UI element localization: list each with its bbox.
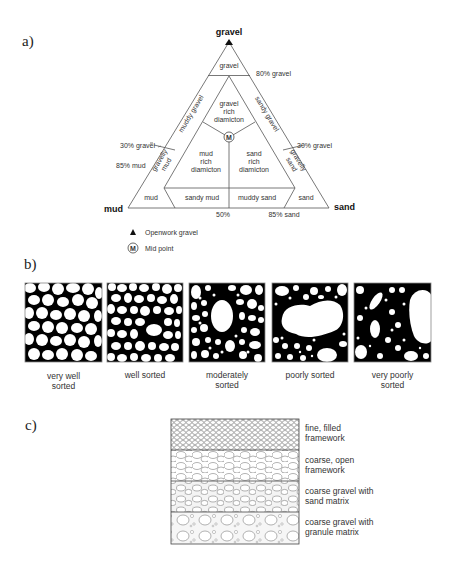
caption-line: well sorted <box>107 370 183 380</box>
region-gravel: gravel <box>219 62 239 70</box>
region-mud-rich-diamicton-2: rich <box>200 158 211 165</box>
label-coarse-gravel-sand-matrix: coarse gravel with sand matrix <box>305 486 374 506</box>
layer-coarse-open <box>171 450 299 481</box>
sorting-panel-moderately <box>189 283 265 362</box>
label-line: framework <box>305 465 354 475</box>
region-sandy-gravel: sandy gravel <box>253 95 281 134</box>
sorting-panel-well <box>107 283 183 362</box>
layer-fine-filled <box>171 419 299 450</box>
boundary-30-gravel-left: 30% gravel <box>120 142 155 150</box>
region-sandy-mud: sandy mud <box>185 194 219 202</box>
apex-label-sand: sand <box>334 202 355 212</box>
apex-label-mud: mud <box>104 204 123 214</box>
boundary-80-gravel: 80% gravel <box>256 70 291 78</box>
boundary-30-gravel-right: 30% gravel <box>297 142 332 150</box>
region-mud-rich-diamicton-1: mud <box>199 150 213 157</box>
label-line: coarse, open <box>305 455 354 465</box>
openwork-gravel-marker-icon <box>225 39 233 45</box>
label-fine-filled-framework: fine, filled framework <box>305 423 345 443</box>
label-line: fine, filled <box>305 423 345 433</box>
caption-line: sorted <box>25 381 102 391</box>
label-line: sand matrix <box>305 496 374 506</box>
region-mud: mud <box>144 194 158 201</box>
sorting-panel-very-poorly <box>354 283 432 362</box>
caption-very-poorly-sorted: very poorly sorted <box>354 370 431 390</box>
caption-line: sorted <box>189 380 265 390</box>
caption-line: very poorly <box>354 370 431 380</box>
boundary-50-percent: 50% <box>216 211 230 218</box>
region-sand-rich-diamicton-3: diamicton <box>239 166 269 173</box>
region-muddy-sand: muddy sand <box>238 194 276 202</box>
region-sand-rich-diamicton-1: sand <box>246 150 261 157</box>
sorting-panel-very-well <box>24 282 103 362</box>
caption-line: moderately <box>189 370 265 380</box>
label-line: framework <box>305 433 345 443</box>
label-coarse-gravel-granule-matrix: coarse gravel with granule matrix <box>305 517 374 537</box>
region-sand-rich-diamicton-2: rich <box>248 158 259 165</box>
caption-well-sorted: well sorted <box>107 370 183 380</box>
region-gravel-rich-diamicton-1: gravel <box>219 100 239 108</box>
midpoint-symbol: M <box>226 134 232 141</box>
label-coarse-open-framework: coarse, open framework <box>305 455 354 475</box>
region-gravel-rich-diamicton-2: rich <box>223 108 234 115</box>
boundary-85-mud: 85% mud <box>116 162 146 169</box>
region-muddy-gravel: muddy gravel <box>177 94 206 135</box>
apex-label-gravel: gravel <box>216 27 243 37</box>
panel-c-label: c) <box>25 417 37 434</box>
caption-very-well-sorted: very well sorted <box>25 371 102 391</box>
ternary-diagram: M gravel mud sand gravel muddy gravel sa… <box>0 0 449 270</box>
boundary-85-sand: 85% sand <box>268 211 299 218</box>
label-line: coarse gravel with <box>305 486 374 496</box>
legend-openwork-gravel: Openwork gravel <box>145 229 198 237</box>
caption-line: poorly sorted <box>272 370 348 380</box>
region-mud-rich-diamicton-3: diamicton <box>191 166 221 173</box>
caption-line: sorted <box>354 380 431 390</box>
region-gravel-rich-diamicton-3: diamicton <box>214 116 244 123</box>
caption-poorly-sorted: poorly sorted <box>272 370 348 380</box>
sorting-panel-poorly <box>272 283 348 362</box>
caption-line: very well <box>25 371 102 381</box>
layer-coarse-sand-matrix <box>171 481 299 512</box>
label-line: coarse gravel with <box>305 517 374 527</box>
legend-mid-point: Mid point <box>145 245 173 253</box>
label-line: granule matrix <box>305 527 374 537</box>
legend-midpoint-symbol: M <box>130 245 136 252</box>
layer-coarse-granule-matrix <box>171 512 299 544</box>
region-sand: sand <box>298 194 313 201</box>
legend-triangle-icon <box>130 229 136 235</box>
caption-moderately-sorted: moderately sorted <box>189 370 265 390</box>
